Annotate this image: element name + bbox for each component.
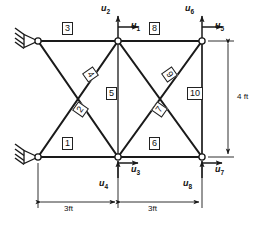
node-top-left — [35, 38, 41, 44]
member-label-8: 8 — [149, 22, 160, 35]
u4-label: u4 — [99, 178, 108, 190]
u6-label: u6 — [185, 3, 194, 15]
node-bottom-left — [35, 154, 41, 160]
u5-label: u5 — [215, 20, 224, 32]
dim-vertical-label: 4 ft — [237, 92, 248, 101]
support-top-left — [15, 28, 38, 49]
u7-label: u7 — [215, 164, 224, 176]
dim-right-label: 3ft — [148, 204, 157, 213]
node-top-right — [199, 38, 205, 44]
truss-diagram: 1 2 3 4 5 6 7 8 9 10 u1 u2 u3 u4 u5 u6 u… — [0, 0, 270, 225]
member-label-5: 5 — [106, 87, 117, 100]
support-bottom-left — [15, 144, 38, 165]
member-label-6: 6 — [149, 137, 160, 150]
u3-label: u3 — [131, 164, 140, 176]
member-label-10: 10 — [187, 87, 203, 100]
truss-canvas — [0, 0, 270, 225]
dim-left-label: 3ft — [64, 204, 73, 213]
member-label-1: 1 — [62, 137, 73, 150]
u2-label: u2 — [101, 3, 110, 15]
member-label-3: 3 — [62, 22, 73, 35]
support-hatch-top-left — [15, 28, 24, 49]
node-top-middle — [115, 38, 121, 44]
node-bottom-middle — [115, 154, 121, 160]
u1-label: u1 — [131, 20, 140, 32]
node-bottom-right — [199, 154, 205, 160]
u8-label: u8 — [183, 178, 192, 190]
support-hatch-bottom-left — [15, 144, 24, 165]
